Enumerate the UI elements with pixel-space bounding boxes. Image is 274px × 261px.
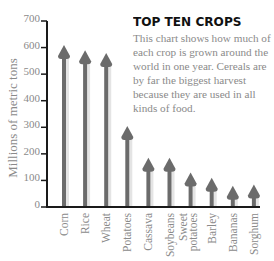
x-category-label: Barley (206, 213, 219, 244)
y-tick-label: 600 (24, 39, 41, 51)
x-category-label: Sorghum (248, 213, 261, 255)
y-tick-label: 700 (24, 12, 41, 24)
arrow-bar (206, 178, 218, 207)
x-category-label: Corn (58, 213, 70, 236)
arrow-bar (227, 186, 239, 207)
arrow-bar (185, 172, 197, 207)
chart-arrows (58, 45, 260, 207)
y-tick-label: 300 (24, 118, 41, 130)
x-category-label: Soybeans (164, 212, 177, 257)
x-category-label: Potatoes (121, 212, 133, 251)
arrow-bar (79, 50, 91, 207)
arrow-bar (164, 158, 176, 207)
arrow-bar-chart: 0100200300400500600700 CornRiceWheatPota… (0, 0, 274, 261)
arrow-bar (100, 53, 112, 207)
arrow-bar (58, 45, 70, 207)
y-tick-label: 0 (35, 198, 41, 210)
x-axis: CornRiceWheatPotatoesCassavaSoybeansSwee… (46, 207, 261, 257)
x-category-label: Bananas (227, 212, 239, 251)
arrow-bar (142, 158, 154, 207)
y-tick-label: 200 (24, 145, 41, 157)
y-tick-label: 100 (24, 171, 41, 183)
y-tick-label: 400 (24, 92, 41, 104)
x-category-label: Rice (79, 213, 91, 234)
arrow-bar (248, 184, 260, 207)
y-axis-label: Millions of metric tons (5, 58, 20, 178)
y-axis: 0100200300400500600700 (24, 12, 48, 210)
y-tick-label: 500 (24, 65, 41, 77)
x-category-label: Wheat (100, 212, 112, 243)
x-category-label: potatoes (187, 212, 200, 251)
x-category-label: Cassava (142, 213, 154, 251)
arrow-bar (121, 126, 133, 207)
